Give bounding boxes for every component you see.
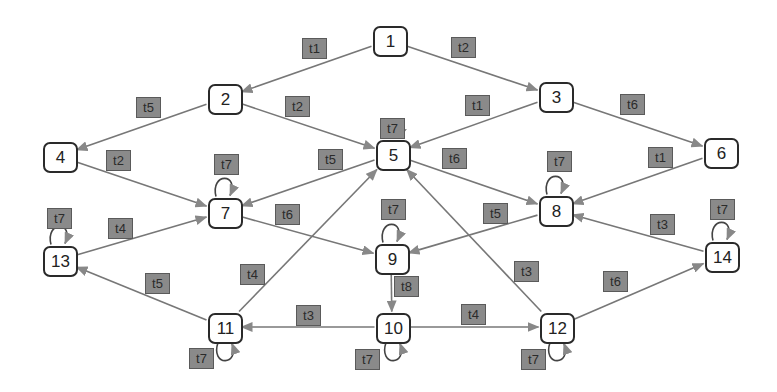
self-loop-label-13: t7 <box>47 208 72 229</box>
self-loop-8 <box>546 176 563 194</box>
self-loop-label-12: t7 <box>521 349 546 370</box>
edge-8-to-9 <box>409 215 538 253</box>
transition-label-2-5: t2 <box>285 96 310 117</box>
edge-5-to-7 <box>242 160 375 206</box>
self-loop-12 <box>549 343 566 361</box>
state-node-10: 10 <box>376 313 411 344</box>
transition-label-10-12: t4 <box>461 304 486 325</box>
transition-label-9-10: t8 <box>394 276 419 297</box>
self-loop-10 <box>385 343 402 361</box>
transition-label-5-7: t5 <box>318 149 343 170</box>
state-node-11: 11 <box>208 313 243 344</box>
self-loop-11 <box>217 343 234 361</box>
transition-label-8-9: t5 <box>483 203 508 224</box>
transition-label-11-13: t5 <box>145 273 170 294</box>
edge-5-to-8 <box>410 160 538 204</box>
state-node-1: 1 <box>373 26 408 57</box>
edge-11-to-5 <box>239 170 377 312</box>
self-loop-label-10: t7 <box>355 349 380 370</box>
state-node-14: 14 <box>705 242 740 273</box>
transition-label-13-7: t4 <box>108 218 133 239</box>
transition-label-12-14: t6 <box>603 271 628 292</box>
transition-label-4-7: t2 <box>106 150 131 171</box>
edge-14-to-8 <box>573 215 704 251</box>
self-loop-label-7: t7 <box>214 154 239 175</box>
edge-7-to-9 <box>242 217 374 253</box>
self-loop-label-5: t7 <box>380 118 405 139</box>
transition-label-6-8: t1 <box>648 147 673 168</box>
self-loop-7 <box>215 178 232 196</box>
transition-label-7-9: t6 <box>275 204 300 225</box>
transition-label-3-5: t1 <box>465 95 490 116</box>
edge-6-to-8 <box>573 158 703 204</box>
edge-11-to-13 <box>77 267 207 320</box>
self-loop-9 <box>382 224 399 242</box>
edge-4-to-7 <box>77 162 207 206</box>
state-node-6: 6 <box>704 138 739 169</box>
state-node-13: 13 <box>43 246 78 277</box>
state-node-8: 8 <box>539 196 574 227</box>
self-loop-label-8: t7 <box>547 151 572 172</box>
state-node-3: 3 <box>539 82 574 113</box>
edge-12-to-5 <box>407 170 542 312</box>
transition-label-2-4: t5 <box>136 97 161 118</box>
edge-13-to-7 <box>77 217 207 255</box>
state-node-12: 12 <box>540 313 575 344</box>
state-node-7: 7 <box>208 198 243 229</box>
transition-label-1-3: t2 <box>451 37 476 58</box>
self-loop-label-9: t7 <box>381 199 406 220</box>
edge-12-to-14 <box>574 264 704 320</box>
self-loop-label-11: t7 <box>189 348 214 369</box>
state-node-9: 9 <box>375 244 410 275</box>
self-loop-13 <box>50 226 67 244</box>
state-diagram: t1t2t5t2t1t6t2t5t6t1t6t5t4t4t3t3t6t8t3t4… <box>0 0 777 392</box>
transition-label-11-5: t4 <box>240 264 265 285</box>
transition-label-5-8: t6 <box>442 148 467 169</box>
state-node-4: 4 <box>43 142 78 173</box>
transition-label-14-8: t3 <box>650 214 675 235</box>
edge-9-to-10 <box>391 274 392 312</box>
state-node-2: 2 <box>208 84 243 115</box>
self-loop-14 <box>712 222 729 240</box>
transition-label-3-6: t6 <box>620 94 645 115</box>
transition-label-1-2: t1 <box>302 38 327 59</box>
transition-label-12-5: t3 <box>514 261 539 282</box>
transition-label-10-11: t3 <box>296 305 321 326</box>
self-loop-label-14: t7 <box>710 199 735 220</box>
state-node-5: 5 <box>376 140 411 171</box>
